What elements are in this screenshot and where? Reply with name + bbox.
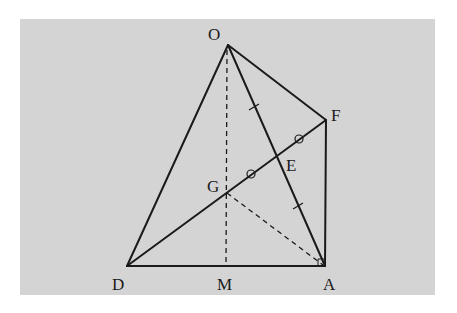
segment-OF [228,45,326,120]
segment-OD [127,45,228,266]
dashed-segment-OM [226,50,227,266]
segment-FA [325,120,326,266]
geometry-diagram: O F E G D M A [0,0,457,313]
label-F: F [331,106,340,125]
label-O: O [208,25,220,44]
label-A: A [323,275,336,294]
label-E: E [286,156,296,175]
label-D: D [112,275,124,294]
label-G: G [207,177,219,196]
label-M: M [217,275,232,294]
